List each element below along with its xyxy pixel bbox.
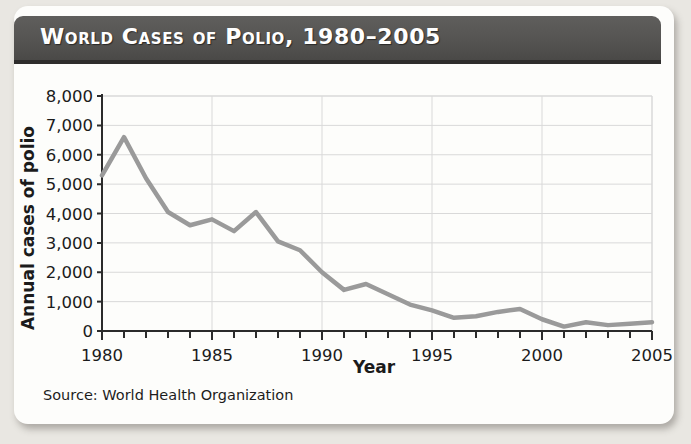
data-series-line [102, 137, 652, 326]
svg-text:1990: 1990 [301, 346, 343, 365]
svg-text:2005: 2005 [631, 346, 673, 365]
svg-text:1980: 1980 [81, 346, 123, 365]
svg-text:4,000: 4,000 [46, 205, 93, 224]
title-banner: World Cases of Polio, 1980–2005 [14, 16, 661, 60]
svg-text:1995: 1995 [411, 346, 453, 365]
gridlines [102, 96, 652, 331]
svg-text:3,000: 3,000 [46, 234, 93, 253]
svg-text:6,000: 6,000 [46, 146, 93, 165]
axis-lines [102, 94, 652, 331]
chart-card: World Cases of Polio, 1980–2005 01,0002,… [14, 6, 674, 424]
svg-text:8,000: 8,000 [46, 87, 93, 106]
svg-text:1,000: 1,000 [46, 293, 93, 312]
svg-text:2000: 2000 [521, 346, 563, 365]
x-axis-title: Year [352, 357, 396, 377]
polio-line-chart: 01,0002,0003,0004,0005,0006,0007,0008,00… [14, 68, 674, 388]
page-title: World Cases of Polio, 1980–2005 [40, 24, 441, 49]
svg-text:0: 0 [83, 322, 94, 341]
svg-text:5,000: 5,000 [46, 175, 93, 194]
svg-text:2,000: 2,000 [46, 263, 93, 282]
chart-plot-area: 01,0002,0003,0004,0005,0006,0007,0008,00… [14, 68, 674, 388]
source-note: Source: World Health Organization [43, 387, 293, 403]
svg-text:1985: 1985 [191, 346, 233, 365]
svg-text:7,000: 7,000 [46, 116, 93, 135]
y-axis-tick-labels: 01,0002,0003,0004,0005,0006,0007,0008,00… [46, 87, 93, 341]
y-axis-title: Annual cases of polio [18, 126, 38, 330]
